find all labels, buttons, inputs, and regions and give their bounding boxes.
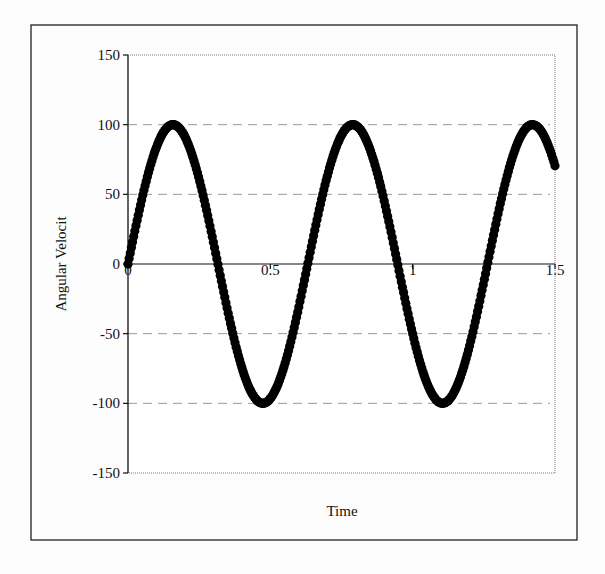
x-tick-label: 0.5 xyxy=(261,262,280,278)
x-axis-title: Time xyxy=(326,503,357,519)
y-axis-title: Angular Velocit xyxy=(53,216,69,312)
y-tick-label: 100 xyxy=(98,117,121,133)
y-tick-label: 150 xyxy=(98,47,121,63)
y-axis-ticks: 150100500-50-100-150 xyxy=(93,47,129,481)
y-tick-label: -50 xyxy=(100,326,120,342)
data-point xyxy=(550,161,559,170)
y-tick-label: 0 xyxy=(113,256,121,272)
y-tick-label: -100 xyxy=(93,395,121,411)
y-tick-label: -150 xyxy=(93,465,121,481)
chart: 150100500-50-100-150 00.511.5 Time Angul… xyxy=(0,0,605,574)
y-tick-label: 50 xyxy=(105,186,120,202)
x-tick-label: 1.5 xyxy=(546,262,565,278)
x-tick-label: 1 xyxy=(409,262,417,278)
